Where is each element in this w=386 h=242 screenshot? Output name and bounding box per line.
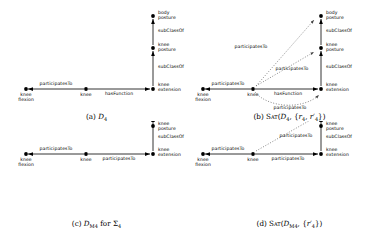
knee-posture-line2: posture [326,47,344,52]
node-knee-dot [251,87,255,91]
knee-extension-line2: extension [158,152,181,157]
node-label-knee-flexion: kneeflexion [18,157,34,168]
caption-a-tag: (a) [86,112,96,121]
knee-posture-line1: knee [326,42,337,47]
edge-label-subclassof-upper: subClassOf [158,28,184,33]
node-label-knee-extension: kneeextension [326,147,349,158]
node-knee-dot [251,152,255,156]
edge-label-participates-to-flexion: participatesTo [212,81,245,86]
edge-label-subclassof-lower: subClassOf [326,64,352,69]
edge-label-subclassof-lower: subClassOf [158,64,184,69]
node-label-knee-posture: kneeposture [326,121,344,132]
edge-label-participates-to-extension: participatesTo [103,156,136,161]
body-posture-line1: body [326,10,338,15]
knee-flexion-line1: knee [197,157,208,162]
edge-label-subclassof: subClassOf [326,134,352,139]
body-posture-line2: posture [158,15,176,20]
caption-c: (c) DM4 for Σ4 [0,219,193,228]
caption-d-r1sub: 4 [312,223,315,229]
node-knee-extension-dot [151,87,155,91]
edge-label-has-function: hasFunction [105,91,133,96]
node-label-knee-extension: kneeextension [158,147,181,158]
node-knee-dot [84,152,88,156]
knee-extension-line1: knee [326,82,337,87]
edge-label-has-function: hasFunction [274,91,302,96]
node-label-knee: knee [80,92,91,97]
knee-flexion-line2: flexion [18,97,34,102]
node-body-posture-dot [151,14,155,18]
knee-extension-line1: knee [158,82,169,87]
caption-c-sub: M4 [90,223,98,229]
caption-d-tag: (d) [257,219,267,228]
caption-a: (a) D4 [0,112,193,121]
edge-label-participates-to-flexion: participatesTo [40,81,73,86]
node-knee-flexion-dot [24,152,28,156]
caption-b: (b) Sat(D4, {r4, r′4}) [193,112,386,121]
panel-a: kneeflexion knee kneeextension kneepostu… [0,0,193,121]
caption-c-sigmasub: 4 [118,223,121,229]
panel-a-canvas: kneeflexion knee kneeextension kneepostu… [0,0,193,121]
caption-b-sub: 4 [286,116,289,122]
knee-flexion-line2: flexion [195,97,211,102]
knee-flexion-line1: knee [20,92,31,97]
caption-d-fn: Sat [269,219,281,228]
node-knee-flexion-dot [201,152,205,156]
edge-label-participates-to-flexion: participatesTo [212,146,245,151]
knee-posture-line2: posture [158,47,176,52]
caption-b-r2sub: 4 [315,116,318,122]
edge-label-inferred-body-posture: participatesTo [235,44,268,49]
caption-b-close: }) [318,112,325,121]
node-label-knee: knee [247,157,258,162]
caption-a-sub: 4 [104,116,107,122]
caption-d: (d) Sat(DM4, {r′4}) [193,219,386,228]
node-label-knee-extension: kneeextension [158,82,181,93]
panel-b-graph [193,0,386,121]
node-label-knee-extension: kneeextension [326,82,349,93]
knee-flexion-line1: knee [20,157,31,162]
node-knee-flexion-dot [24,87,28,91]
node-label-knee: knee [247,92,258,97]
caption-c-tag: (c) [72,219,82,228]
knee-extension-line2: extension [326,87,349,92]
edge-label-subclassof-upper: subClassOf [326,28,352,33]
caption-d-sub: M4 [289,223,297,229]
edge-label-subclassof: subClassOf [158,134,184,139]
knee-flexion-line1: knee [197,92,208,97]
body-posture-line1: body [158,10,170,15]
node-knee-flexion-dot [201,87,205,91]
edge-label-participates-to-extension: participatesTo [272,156,305,161]
caption-b-r1sub: 4 [302,116,305,122]
node-label-knee-posture: kneeposture [326,42,344,53]
caption-c-symbol: D [84,219,90,228]
node-label-knee-posture: kneeposture [158,42,176,53]
node-label-body-posture: bodyposture [326,10,344,21]
caption-b-fn: Sat [266,112,278,121]
caption-d-mid: , { [298,219,307,228]
node-label-knee: knee [80,157,91,162]
knee-extension-line2: extension [158,87,181,92]
caption-b-mid: , { [289,112,298,121]
panel-b-canvas: kneeflexion knee kneeextension kneepostu… [193,0,386,121]
edge-label-inferred-knee-posture: participatesTo [276,66,309,71]
node-knee-posture-dot-visible [151,124,155,128]
node-knee-extension-dot [151,152,155,156]
knee-posture-line2: posture [158,126,176,131]
figure-four-panel-diagram: kneeflexion knee kneeextension kneepostu… [0,0,386,242]
node-knee-posture-dot [151,46,155,50]
node-label-knee-flexion: kneeflexion [195,157,211,168]
knee-extension-line2: extension [326,152,349,157]
node-knee-posture-dot-visible [319,124,323,128]
knee-flexion-line2: flexion [18,162,34,167]
caption-c-word: for [100,219,110,228]
node-label-knee-flexion: kneeflexion [18,92,34,103]
node-knee-dot [84,87,88,91]
node-knee-extension-dot [319,87,323,91]
caption-b-tag: (b) [254,112,264,121]
caption-d-close: }) [315,219,322,228]
knee-posture-line1: knee [326,121,337,126]
node-label-knee-flexion: kneeflexion [195,92,211,103]
arrow-inferred-body-posture [256,20,314,86]
edge-label-inferred-knee-posture: participatesTo [280,133,313,138]
knee-posture-line1: knee [158,42,169,47]
knee-posture-line1: knee [158,121,169,126]
